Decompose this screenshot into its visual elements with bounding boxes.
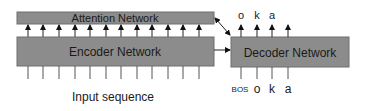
encoder-network-block: Encoder Network <box>17 37 214 66</box>
attention-network-block: Attention Network <box>17 12 214 24</box>
decoder-output-labels: o k a <box>238 9 276 21</box>
attention-decoder-arrow <box>215 18 230 35</box>
attention-network-label: Attention Network <box>72 12 159 24</box>
input-token: o <box>254 82 261 96</box>
seq2seq-attention-diagram: Attention Network Encoder Network <box>0 0 368 111</box>
encoder-network-label: Encoder Network <box>69 45 162 59</box>
input-token: a <box>285 82 292 96</box>
input-sequence-label: Input sequence <box>72 90 154 104</box>
input-token-bos: BOS <box>232 85 249 94</box>
decoder-network-label: Decoder Network <box>244 46 338 60</box>
input-token: k <box>269 82 276 96</box>
output-token: a <box>269 9 276 21</box>
encoder-input-lines <box>28 66 199 79</box>
decoder-network-block: Decoder Network <box>231 37 349 67</box>
decoder-input-lines <box>241 67 288 79</box>
decoder-output-arrows <box>241 25 288 37</box>
output-token: k <box>254 9 260 21</box>
output-token: o <box>238 9 244 21</box>
encoder-to-attention-arrows <box>28 25 199 37</box>
decoder-input-labels: BOS o k a <box>232 82 292 96</box>
